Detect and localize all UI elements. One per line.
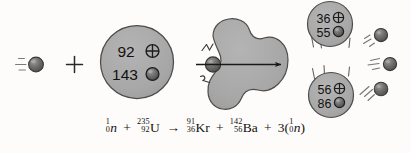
striking-neutron-highlight (208, 60, 213, 64)
emitted-neutron-3-particle (374, 82, 388, 96)
emitted-neutron-2-highlight (386, 60, 390, 63)
neutron-icon (146, 68, 159, 81)
equation-plus-3: + (264, 120, 272, 135)
emitted-neutron-2-particle (383, 57, 396, 70)
equation-neutron-reactant: 10n (106, 118, 117, 136)
equation-neutron-products: 3(10n) (278, 118, 305, 136)
uranium-235-nucleus (101, 26, 174, 99)
neutron-product-close-paren: ) (301, 120, 306, 135)
barium-neutron-count: 86 (318, 97, 332, 111)
barium-proton-icon (334, 83, 344, 93)
barium-symbol: Ba (243, 120, 258, 135)
uranium-neutron-count: 143 (112, 66, 138, 83)
emitted-neutron-3-highlight (377, 85, 381, 88)
krypton-symbol: Kr (195, 120, 209, 135)
uranium-symbol: U (150, 120, 160, 135)
equation-barium-product: 14256Ba (230, 118, 258, 136)
krypton-proton-count: 36 (317, 12, 331, 26)
emitted-neutron-1-particle (374, 28, 387, 41)
krypton-proton-icon (333, 12, 343, 22)
uranium-nucleus-body (101, 26, 174, 99)
uranium-indices: 23592 (137, 118, 150, 135)
neutron-product-symbol: n (294, 120, 301, 135)
krypton-atomic-number: 36 (187, 126, 195, 134)
equation-plus-2: + (216, 120, 224, 135)
nuclear-equation: 10n + 23592U → 9136Kr + 14256Ba + 3(10n) (0, 118, 411, 136)
equation-uranium-reactant: 23592U (137, 118, 160, 136)
emitted-neutron-1-highlight (377, 31, 381, 34)
neutron-product-multiplier: 3( (278, 120, 289, 135)
krypton-neutron-count: 55 (317, 26, 331, 40)
equation-plus-1: + (123, 120, 131, 135)
neutron-reactant-symbol: n (110, 120, 117, 135)
barium-neutron-icon (334, 97, 344, 107)
proton-icon (146, 45, 159, 58)
krypton-neutron-icon (333, 26, 343, 36)
fission-diagram-figure: 92 143 36 55 56 86 10n + 23592U → 9136Kr… (0, 0, 411, 153)
incoming-neutron-particle (29, 57, 44, 72)
barium-atomic-number: 56 (230, 126, 243, 134)
equation-arrow: → (166, 120, 180, 135)
barium-indices: 14256 (230, 118, 243, 135)
incoming-neutron-highlight (31, 60, 36, 64)
krypton-indices: 9136 (187, 118, 195, 135)
equation-line: 10n + 23592U → 9136Kr + 14256Ba + 3(10n) (106, 118, 305, 136)
uranium-proton-count: 92 (117, 43, 134, 60)
equation-krypton-product: 9136Kr (187, 118, 210, 136)
uranium-atomic-number: 92 (137, 126, 150, 134)
barium-proton-count: 56 (318, 83, 332, 97)
